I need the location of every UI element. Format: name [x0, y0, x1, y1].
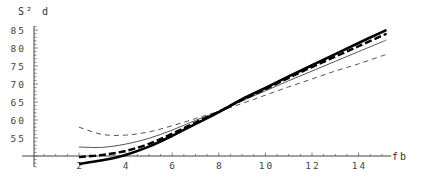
y-tick-label: 80 — [11, 43, 26, 54]
y-tick-label: 85 — [11, 25, 26, 36]
x-tick-label: 4 — [123, 160, 131, 171]
x-tick-label: 12 — [305, 160, 320, 171]
series-line — [79, 54, 387, 135]
y-tick-label: 75 — [11, 61, 26, 72]
line-chart: 55606570758085 2468101214 S² d fb — [0, 0, 428, 182]
y-axis-title: S² d — [18, 6, 50, 17]
x-tick-label: 14 — [352, 160, 367, 171]
x-tick-label: 6 — [169, 160, 177, 171]
x-axis-title: fb — [392, 151, 408, 162]
x-tick-label: 10 — [259, 160, 274, 171]
axes — [22, 26, 391, 166]
series-line — [79, 40, 387, 148]
y-tick-label: 55 — [11, 133, 26, 144]
y-tick-label: 60 — [11, 115, 26, 126]
y-tick-label: 65 — [11, 97, 26, 108]
x-tick-label: 8 — [216, 160, 224, 171]
x-tick-label: 2 — [76, 160, 84, 171]
series-lines — [79, 30, 387, 164]
y-tick-label: 70 — [11, 79, 26, 90]
